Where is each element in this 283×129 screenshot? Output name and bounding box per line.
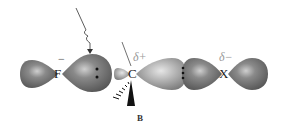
plain-bond — [122, 42, 131, 66]
charge-c: δ+ — [133, 50, 147, 65]
charge-x: δ− — [219, 50, 233, 65]
wavy-arrow-icon — [76, 8, 93, 54]
atom-c-label: C — [128, 66, 137, 82]
atom-x-label: X — [219, 66, 228, 82]
x-front-lobe — [228, 58, 268, 90]
lone-pair-dot — [96, 76, 99, 79]
orbital-diagram: F − C δ+ X δ− B — [0, 0, 283, 129]
lone-pair-dot — [96, 68, 99, 71]
f-back-lobe — [20, 60, 58, 88]
bond-dot — [182, 72, 185, 75]
wedge-bond — [127, 80, 135, 106]
x-back-lobe — [182, 58, 222, 90]
f-front-lobe — [62, 54, 112, 92]
bond-dot — [182, 67, 185, 70]
charge-f: − — [58, 52, 65, 67]
atom-f-label: F — [54, 66, 61, 82]
hash-bond — [113, 82, 129, 99]
bond-dot — [182, 77, 185, 80]
figure-label: B — [137, 113, 143, 123]
